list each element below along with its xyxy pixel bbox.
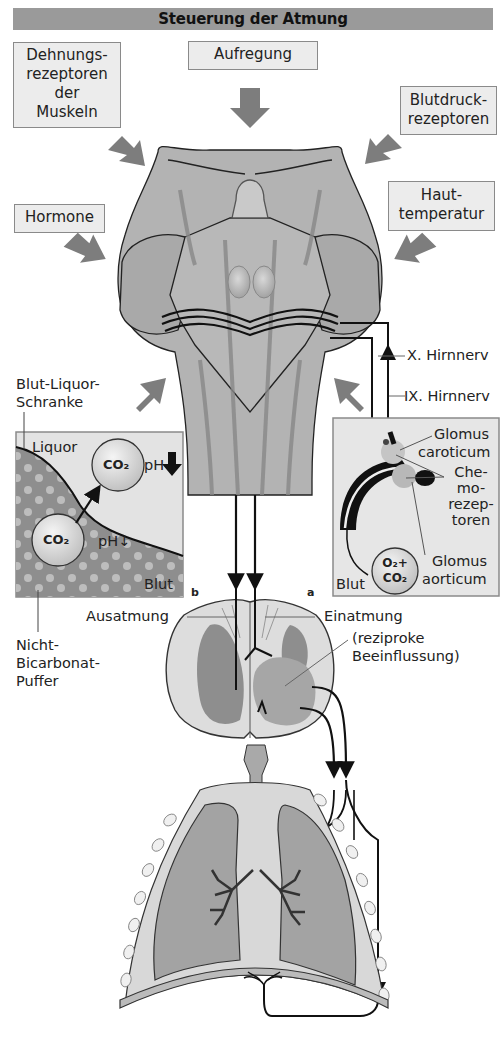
label-co2-bottom: CO₂ — [43, 531, 69, 549]
label-ph-top: pH — [144, 456, 164, 474]
label-line: Glomus — [422, 552, 487, 570]
label-line: CO₂ — [378, 571, 412, 586]
label-blut-liquor-schranke: Blut-Liquor- Schranke — [16, 375, 100, 411]
label-blut-b: Blut — [144, 575, 173, 593]
label-line: Puffer — [16, 672, 100, 690]
respiration-illustration — [0, 0, 504, 1043]
label-line: mo- — [446, 480, 496, 496]
label-x-hirnnerv: X. Hirnnerv — [407, 346, 489, 364]
label-liquor: Liquor — [32, 438, 77, 456]
label-line: Beeinflussung) — [352, 647, 460, 665]
panel-letter-b: b — [191, 586, 199, 599]
label-line: Blut-Liquor- — [16, 375, 100, 393]
label-line: Schranke — [16, 393, 100, 411]
label-einatmung: Einatmung — [324, 607, 403, 625]
label-o2-co2: O₂+ CO₂ — [378, 556, 412, 586]
label-chemorezeptoren: Che- mo- rezep- toren — [446, 464, 496, 528]
label-blut-a: Blut — [336, 575, 365, 593]
thorax — [119, 783, 390, 1009]
label-glomus-caroticum: Glomus caroticum — [418, 425, 490, 461]
label-line: Bicarbonat- — [16, 654, 100, 672]
panel-letter-a: a — [307, 586, 314, 599]
label-line: Che- — [446, 464, 496, 480]
label-line: (reziproke — [352, 629, 460, 647]
label-line: rezep- — [446, 496, 496, 512]
label-line: toren — [446, 512, 496, 528]
label-glomus-aorticum: Glomus aorticum — [422, 552, 487, 588]
label-line: Nicht- — [16, 636, 100, 654]
label-line: Glomus — [418, 425, 490, 443]
label-line: O₂+ — [378, 556, 412, 571]
label-line: caroticum — [418, 443, 490, 461]
label-line: aorticum — [422, 570, 487, 588]
label-ausatmung: Ausatmung — [86, 607, 169, 625]
label-ph-bottom: pH↓ — [98, 532, 130, 550]
label-co2-top: CO₂ — [103, 456, 129, 474]
label-nicht-bicarbonat-puffer: Nicht- Bicarbonat- Puffer — [16, 636, 100, 690]
label-ix-hirnnerv: IX. Hirnnerv — [404, 387, 490, 405]
label-reziproke-beeinflussung: (reziproke Beeinflussung) — [352, 629, 460, 665]
